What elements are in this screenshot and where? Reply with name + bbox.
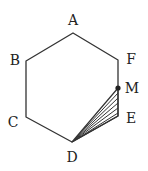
hatch-line <box>72 108 118 142</box>
vertex-label-b: B <box>10 53 20 67</box>
vertex-label-c: C <box>8 115 19 129</box>
vertex-label-d: D <box>66 150 77 164</box>
vertex-label-e: E <box>126 111 136 125</box>
hatch-line <box>72 103 118 142</box>
triangle-dme-outline <box>72 88 118 142</box>
vertex-label-f: F <box>126 52 136 66</box>
point-m-dot <box>115 85 120 90</box>
vertex-label-a: A <box>68 13 78 27</box>
point-label-m: M <box>125 81 139 95</box>
hexagon-outline <box>26 33 118 142</box>
